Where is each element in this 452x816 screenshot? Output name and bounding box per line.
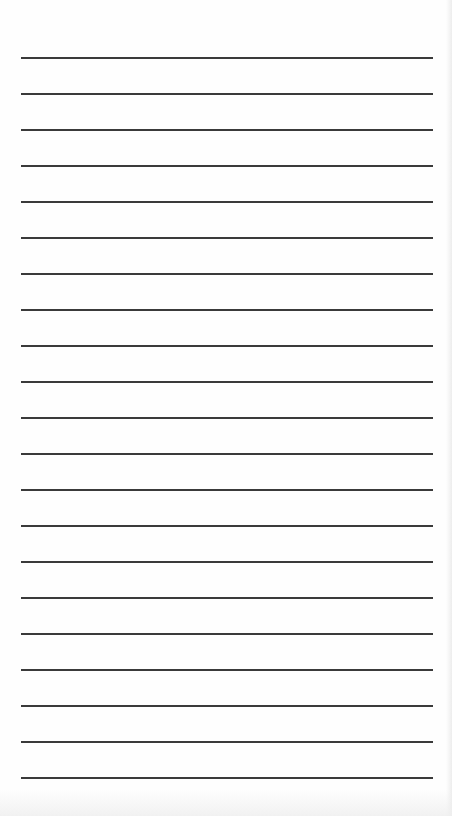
ruled-line (21, 489, 433, 491)
ruled-line (21, 669, 433, 671)
ruled-line (21, 777, 433, 779)
ruled-line (21, 633, 433, 635)
ruled-line (21, 345, 433, 347)
bottom-edge-shadow (0, 790, 452, 816)
ruled-line (21, 273, 433, 275)
right-edge-shadow (446, 0, 452, 816)
ruled-line (21, 705, 433, 707)
ruled-line (21, 381, 433, 383)
ruled-line (21, 201, 433, 203)
ruled-line (21, 453, 433, 455)
ruled-line (21, 165, 433, 167)
ruled-line (21, 597, 433, 599)
ruled-line (21, 129, 433, 131)
ruled-line (21, 57, 433, 59)
ruled-line (21, 237, 433, 239)
ruled-line (21, 93, 433, 95)
ruled-line (21, 741, 433, 743)
ruled-line (21, 309, 433, 311)
ruled-line (21, 561, 433, 563)
ruled-line (21, 525, 433, 527)
ruled-line (21, 417, 433, 419)
lined-paper-sheet (0, 0, 452, 816)
